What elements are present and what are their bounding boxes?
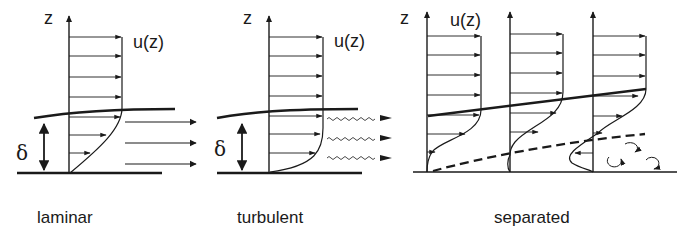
caption-separated: separated: [494, 208, 570, 228]
turbulent-z-label: z: [243, 8, 252, 29]
velocity-arrows-1: [427, 36, 480, 152]
outer-flow-arrows: [125, 122, 196, 164]
laminar-delta-label: δ: [16, 141, 28, 165]
turbulent-wavy-flow: [327, 118, 375, 160]
separation-streamline: [433, 134, 645, 171]
incoming-flow-arrows: [380, 115, 392, 161]
separated-panel: [380, 12, 677, 172]
velocity-profile-3: [570, 36, 646, 172]
velocity-arrows-2: [510, 34, 562, 132]
boundary-layer-edge: [217, 109, 358, 118]
velocity-profile-curve: [270, 37, 323, 172]
laminar-panel: [17, 16, 196, 173]
turbulent-delta-label: δ: [214, 137, 226, 161]
velocity-arrows: [269, 37, 322, 153]
caption-turbulent: turbulent: [237, 208, 303, 228]
velocity-profile-1: [427, 36, 481, 172]
turbulent-u-label: u(z): [334, 31, 365, 52]
velocity-arrows: [69, 37, 121, 153]
laminar-z-label: z: [44, 8, 53, 29]
separated-u-label: u(z): [450, 10, 481, 31]
laminar-u-label: u(z): [133, 32, 164, 53]
caption-laminar: laminar: [37, 208, 93, 228]
recirculation-eddies: [607, 143, 659, 169]
separated-z-label: z: [400, 8, 409, 29]
